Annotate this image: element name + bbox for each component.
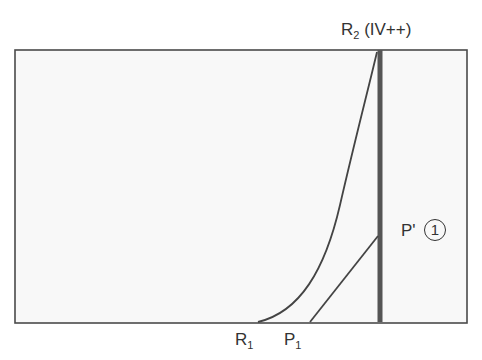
label-p-prime-main: P' xyxy=(401,221,416,240)
label-r2-main: R xyxy=(341,20,353,39)
diagram-frame xyxy=(15,50,467,323)
diagram-canvas xyxy=(0,0,482,360)
label-r1-main: R xyxy=(235,330,247,349)
label-p1-sub: 1 xyxy=(295,339,301,351)
label-r2: R2 (IV++) xyxy=(341,21,411,41)
label-r2-suffix: (IV++) xyxy=(359,20,411,39)
label-p1: P1 xyxy=(284,331,301,351)
label-r1: R1 xyxy=(235,331,253,351)
label-p-prime: P' xyxy=(401,222,416,239)
label-p1-main: P xyxy=(284,330,295,349)
label-r1-sub: 1 xyxy=(247,339,253,351)
circled-number-marker: 1 xyxy=(424,219,446,241)
